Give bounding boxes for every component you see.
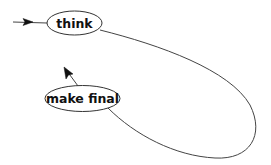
node-think[interactable]: think xyxy=(47,11,102,35)
edge-make-final-out xyxy=(64,67,78,86)
edge-start-to-think xyxy=(13,19,47,26)
edge-think-to-make-final xyxy=(100,30,256,158)
node-think-label: think xyxy=(56,16,93,31)
node-make-final-label: make final xyxy=(46,91,119,106)
node-make-final[interactable]: make final xyxy=(45,86,120,112)
state-diagram: think make final xyxy=(0,0,271,165)
